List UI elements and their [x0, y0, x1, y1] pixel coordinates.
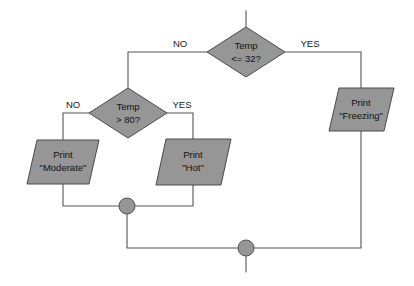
output-print-hot-line2: "Hot"	[182, 162, 204, 173]
line-merge-upper-to-lower	[127, 213, 239, 248]
output-print-moderate-line1: Print	[53, 149, 73, 160]
output-print-hot[interactable]: Print "Hot"	[156, 139, 231, 185]
line-moderate-to-merge	[63, 184, 120, 206]
line-freezing-to-merge	[253, 131, 361, 248]
branch-label-no-top: NO	[173, 38, 187, 49]
line-no-branch-top	[128, 52, 207, 88]
branch-label-no-second: NO	[66, 99, 80, 110]
line-yes-branch-top	[285, 52, 361, 88]
output-print-freezing-line1: Print	[351, 97, 371, 108]
decision-temp-le-32[interactable]: Temp <= 32?	[207, 27, 285, 77]
merge-connector-upper[interactable]	[119, 198, 135, 214]
output-print-hot-line1: Print	[183, 149, 203, 160]
flowchart-canvas: Temp <= 32? NO YES Temp > 80? NO YES Pri…	[0, 0, 414, 286]
merge-connector-lower[interactable]	[238, 240, 254, 256]
branch-label-yes-second: YES	[172, 99, 191, 110]
decision-temp-le-32-line2: <= 32?	[231, 53, 261, 64]
branch-label-yes-top: YES	[300, 38, 319, 49]
decision-temp-gt-80-line1: Temp	[116, 101, 139, 112]
output-print-moderate[interactable]: Print "Moderate"	[27, 140, 99, 184]
output-print-freezing-line2: "Freezing"	[339, 110, 383, 121]
output-print-freezing[interactable]: Print "Freezing"	[329, 88, 394, 131]
decision-temp-gt-80[interactable]: Temp > 80?	[89, 88, 167, 138]
line-yes-branch-second	[167, 113, 193, 139]
line-hot-to-merge	[134, 185, 193, 206]
line-no-branch-second	[63, 113, 89, 140]
decision-temp-le-32-line1: Temp	[234, 40, 257, 51]
decision-temp-gt-80-line2: > 80?	[116, 114, 140, 125]
output-print-moderate-line2: "Moderate"	[40, 162, 87, 173]
